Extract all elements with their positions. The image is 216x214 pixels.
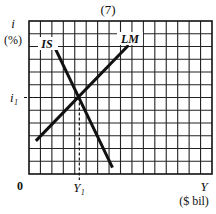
is-curve [53,44,112,168]
figure-caption: FIGURE 11-11 (Continued) [2,212,126,214]
origin-label: 0 [17,179,23,193]
y1-tick-label: Y₁ [73,180,85,195]
is-lm-chart: (7) i (%) IS LM i₁ 0 Y₁ Y ($ bil) FIGURE… [0,0,216,214]
is-label: IS [40,37,53,51]
y-axis-unit: (%) [4,33,22,47]
x-axis-label: Y [200,179,209,194]
x-axis-unit: ($ bil) [179,194,209,208]
lm-label: LM [120,32,139,46]
i1-tick-label: i₁ [10,90,18,105]
y-axis-label: i [11,16,15,31]
chart-title: (7) [100,2,115,17]
